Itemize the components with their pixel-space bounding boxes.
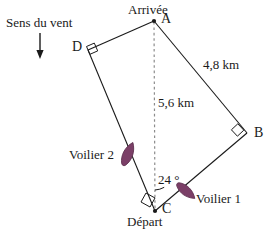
angle-arc-24	[155, 187, 164, 190]
boat-label-voilier-1: Voilier 1	[196, 192, 241, 205]
sailing-geometry-figure: Sens du vent Arrivée A D B C Départ 4,8 …	[0, 0, 267, 233]
sail-voilier-2-icon	[119, 141, 138, 168]
segment-B-A	[154, 21, 247, 133]
wind-direction-label: Sens du vent	[6, 16, 72, 29]
measure-label-segment-ac: 5,6 km	[158, 96, 194, 109]
vertex-label-b: B	[254, 126, 263, 140]
wind-arrow-icon	[36, 33, 43, 59]
boat-label-voilier-2: Voilier 2	[69, 148, 114, 161]
vertex-label-d: D	[72, 40, 82, 54]
vertex-dot-C	[153, 209, 157, 213]
segment-D-C	[88, 50, 155, 211]
measure-label-angle-acb: 24 °	[158, 173, 179, 186]
point-c-caption-depart: Départ	[127, 215, 162, 228]
segment-A-C-dashed	[154, 22, 155, 209]
segment-A-D	[88, 21, 154, 50]
vertex-label-a: A	[161, 12, 171, 26]
vertex-label-c: C	[162, 202, 171, 216]
measure-label-side-ab: 4,8 km	[203, 58, 239, 71]
right-angle-marker-B	[231, 124, 243, 136]
vertex-dot-A	[152, 19, 156, 23]
